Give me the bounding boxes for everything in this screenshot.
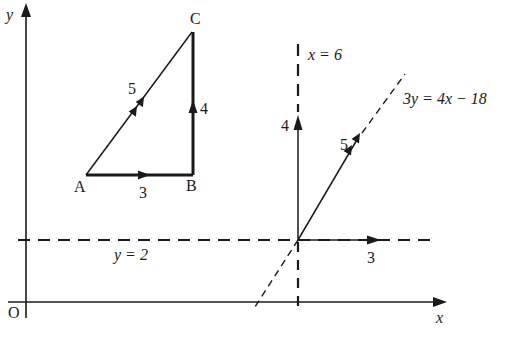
origin-label: O <box>8 304 20 321</box>
line-slanted-label: 3y = 4x − 18 <box>402 90 487 108</box>
y-axis <box>21 3 31 318</box>
vector-vertical-arrow-icon <box>294 115 303 130</box>
side-bc-arrow-icon <box>189 100 198 113</box>
vector-diagram: y x O A B C 3 4 5 y = 2 x = 6 3y = 4x − … <box>0 0 517 337</box>
vertex-a-label: A <box>74 178 86 195</box>
side-bc-length-label: 4 <box>200 100 208 117</box>
vector-horizontal-arrow-icon <box>367 236 381 245</box>
side-ac-length-label: 5 <box>128 80 136 97</box>
line-x-equals-6-label: x = 6 <box>307 46 342 63</box>
line-slanted-lower <box>253 240 298 310</box>
vector-horizontal-label: 3 <box>367 249 375 266</box>
line-slanted-upper <box>362 74 405 133</box>
vector-resultant-label: 5 <box>340 136 348 153</box>
x-axis <box>8 297 447 307</box>
vertex-c-label: C <box>190 10 201 27</box>
vector-vertical-label: 4 <box>281 117 289 134</box>
x-axis-label: x <box>435 309 443 326</box>
triangle-abc <box>86 32 198 180</box>
line-y-equals-2-label: y = 2 <box>112 246 148 264</box>
x-axis-arrow-icon <box>433 297 447 307</box>
vectors-at-intersection <box>294 115 382 245</box>
side-ab-arrow-icon <box>138 171 150 180</box>
y-axis-arrow-icon <box>21 3 31 17</box>
y-axis-label: y <box>4 6 14 24</box>
side-ab-length-label: 3 <box>139 184 147 201</box>
vertex-b-label: B <box>186 177 197 194</box>
